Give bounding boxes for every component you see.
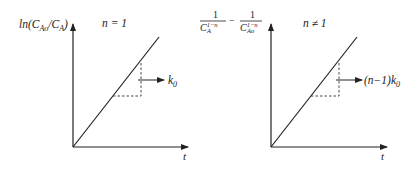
rate-law-diagram: ln(CAo/CA) n = 1 k0 t 1 C1−n A − 1 C1−n … [0, 0, 416, 169]
linear-plot-line [271, 37, 357, 147]
condition-label: n ≠ 1 [303, 17, 327, 29]
slope-label: k0 [168, 74, 177, 89]
panel-first-order: ln(CAo/CA) n = 1 k0 t [19, 17, 188, 162]
x-axis-label: t [183, 150, 187, 162]
condition-label: n = 1 [102, 17, 127, 29]
x-axis-label: t [381, 150, 385, 162]
y-axis-label: 1 C1−n A − 1 C1−n Ao [200, 9, 262, 34]
svg-text:1: 1 [213, 9, 218, 20]
panel-nth-order: 1 C1−n A − 1 C1−n Ao n ≠ 1 (n−1)k0 t [200, 9, 400, 162]
svg-text:−: − [229, 15, 235, 26]
svg-text:Ao: Ao [246, 27, 255, 34]
svg-text:1: 1 [250, 9, 255, 20]
linear-plot-line [73, 37, 159, 147]
y-axis-label: ln(CAo/CA) [19, 18, 68, 33]
svg-text:A: A [206, 27, 211, 34]
slope-label: (n−1)k0 [364, 74, 400, 89]
